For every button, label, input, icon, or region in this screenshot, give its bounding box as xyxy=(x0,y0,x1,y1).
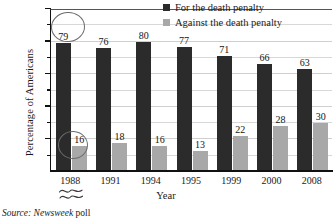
bar-against: 18 xyxy=(112,143,127,172)
y-axis-minor-tick xyxy=(47,155,51,156)
plot-inner: 7916761880167713712266286330 xyxy=(51,10,332,172)
bar-value-label: 28 xyxy=(276,114,286,125)
bar-value-label: 66 xyxy=(260,52,270,63)
y-axis-minor-tick xyxy=(47,122,51,123)
source-publication: Newsweek xyxy=(34,208,74,218)
bar-value-label: 30 xyxy=(316,111,326,122)
legend-item: Against the death penalty xyxy=(163,16,282,29)
y-axis-minor-tick xyxy=(47,89,51,90)
bar-value-label: 77 xyxy=(179,35,189,46)
source-caption: Source: Newsweek poll xyxy=(2,208,90,218)
chart-legend: For the death penaltyAgainst the death p… xyxy=(163,1,282,31)
x-axis-tick-label: 1999 xyxy=(208,175,254,186)
y-axis-tick xyxy=(45,105,51,106)
bar-for: 63 xyxy=(297,69,312,172)
bar-against: 13 xyxy=(193,151,208,172)
bar-for: 76 xyxy=(96,48,111,172)
y-axis-minor-tick xyxy=(47,57,51,58)
source-suffix: poll xyxy=(76,208,91,218)
x-axis-line xyxy=(50,170,333,172)
y-axis-tick xyxy=(45,40,51,41)
bar-group: 7713 xyxy=(177,10,208,172)
bar-group: 6330 xyxy=(297,10,328,172)
bar-value-label: 22 xyxy=(235,124,245,135)
bar-value-label: 13 xyxy=(195,139,205,150)
bar-value-label: 63 xyxy=(300,57,310,68)
y-axis-title: Percentage of Americans xyxy=(24,23,35,183)
bar-value-label: 18 xyxy=(114,131,124,142)
x-axis-title: Year xyxy=(0,190,332,201)
bar-value-label: 76 xyxy=(98,36,108,47)
y-axis-tick xyxy=(45,138,51,139)
legend-item: For the death penalty xyxy=(163,1,282,14)
bar-for: 71 xyxy=(217,56,232,172)
y-axis-tick xyxy=(45,73,51,74)
x-axis-tick-label: 1988 xyxy=(47,175,93,186)
axis-break-squiggle-icon xyxy=(58,186,84,202)
x-axis-tick-label: 2000 xyxy=(249,175,295,186)
legend-item-label: Against the death penalty xyxy=(175,16,282,29)
dark-square-swatch xyxy=(163,4,170,11)
bar-value-label: 80 xyxy=(139,30,149,41)
bar-for: 80 xyxy=(136,42,151,172)
bar-against: 28 xyxy=(273,126,288,172)
x-axis-tick-label: 1991 xyxy=(87,175,133,186)
x-axis-tick-label: 2008 xyxy=(289,175,335,186)
source-prefix: Source: xyxy=(2,208,31,218)
y-axis-tick xyxy=(45,8,51,9)
bar-for: 66 xyxy=(257,64,272,172)
bar-against: 30 xyxy=(313,123,328,172)
legend-item-label: For the death penalty xyxy=(175,1,264,14)
bar-against: 22 xyxy=(233,136,248,172)
bar-group: 7122 xyxy=(217,10,248,172)
gray-square-swatch xyxy=(163,19,170,26)
bar-value-label: 16 xyxy=(155,134,165,145)
x-axis-tick-label: 1994 xyxy=(128,175,174,186)
plot-area: 7916761880167713712266286330 20%40%60%80… xyxy=(50,9,332,172)
x-axis-tick-label: 1995 xyxy=(168,175,214,186)
bar-group: 8016 xyxy=(136,10,167,172)
bar-value-label: 71 xyxy=(219,44,229,55)
bar-for: 77 xyxy=(177,47,192,173)
bar-against: 16 xyxy=(152,146,167,172)
bar-group: 6628 xyxy=(257,10,288,172)
bar-group: 7618 xyxy=(96,10,127,172)
